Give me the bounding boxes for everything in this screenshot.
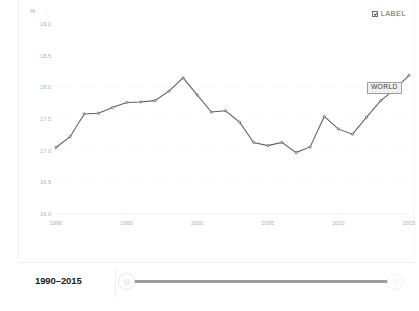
- range-readout: 1990–2015: [35, 275, 82, 286]
- data-point[interactable]: [140, 101, 142, 103]
- x-tick-label: 2005: [262, 220, 274, 226]
- series-line-world: [56, 75, 409, 152]
- data-point[interactable]: [267, 145, 269, 147]
- y-tick-label: 17.5: [40, 116, 51, 122]
- data-point[interactable]: [111, 107, 113, 109]
- y-tick-label: 18.5: [40, 53, 51, 59]
- x-tick-label: 1990: [50, 220, 62, 226]
- x-tick-label: 2015: [403, 220, 415, 226]
- data-point[interactable]: [281, 141, 283, 143]
- x-tick-label: 2010: [332, 220, 344, 226]
- x-axis-ticks: 199019952000200520102015: [50, 220, 415, 226]
- data-point[interactable]: [168, 90, 170, 92]
- plot-area: 19.018.518.017.517.016.516.0 19901995200…: [19, 0, 416, 258]
- x-tick-label: 1995: [120, 220, 132, 226]
- data-point[interactable]: [295, 151, 297, 153]
- gridlines: [56, 24, 409, 214]
- data-point[interactable]: [408, 74, 410, 76]
- slider-track[interactable]: [132, 280, 394, 283]
- data-point[interactable]: [154, 100, 156, 102]
- y-tick-label: 16.5: [40, 179, 51, 185]
- data-point[interactable]: [253, 141, 255, 143]
- chart-application: % LABEL 19.018.518.017.517.016.516.0 199…: [0, 0, 419, 311]
- data-point[interactable]: [83, 113, 85, 115]
- data-point[interactable]: [210, 111, 212, 113]
- data-point[interactable]: [126, 101, 128, 103]
- data-point[interactable]: [182, 77, 184, 79]
- slider-handle-end[interactable]: [387, 273, 404, 290]
- data-point[interactable]: [224, 110, 226, 112]
- data-point[interactable]: [351, 133, 353, 135]
- data-point[interactable]: [97, 112, 99, 114]
- data-point[interactable]: [380, 100, 382, 102]
- series-callout-world[interactable]: WORLD: [367, 82, 402, 93]
- chart-svg: 19.018.518.017.517.016.516.0 19901995200…: [19, 0, 416, 258]
- y-tick-label: 16.0: [40, 211, 51, 217]
- data-point[interactable]: [366, 116, 368, 118]
- data-point[interactable]: [323, 115, 325, 117]
- year-range-slider[interactable]: [118, 267, 408, 297]
- data-point[interactable]: [196, 94, 198, 96]
- y-tick-label: 18.0: [40, 84, 51, 90]
- chart-panel: % LABEL 19.018.518.017.517.016.516.0 199…: [18, 0, 415, 258]
- time-range-bar: 1990–2015: [18, 262, 415, 302]
- data-point[interactable]: [238, 121, 240, 123]
- y-tick-label: 19.0: [40, 21, 51, 27]
- x-tick-label: 2000: [191, 220, 203, 226]
- data-point[interactable]: [337, 128, 339, 130]
- slider-handle-start[interactable]: [118, 273, 135, 290]
- y-tick-label: 17.0: [40, 148, 51, 154]
- data-point[interactable]: [309, 146, 311, 148]
- series-layer: [55, 74, 410, 153]
- data-point[interactable]: [69, 136, 71, 138]
- data-point[interactable]: [55, 146, 57, 148]
- y-axis-ticks: 19.018.518.017.517.016.516.0: [40, 21, 51, 217]
